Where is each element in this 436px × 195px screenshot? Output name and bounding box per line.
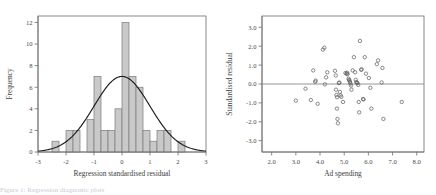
- scatter-point: [335, 107, 338, 110]
- scatter-x-tick-label: 2.0: [268, 158, 277, 165]
- histogram-bar: [150, 141, 157, 152]
- scatter-points: [294, 39, 403, 125]
- histogram-panel: -3-2-10123 024681012 Regression standard…: [0, 0, 218, 195]
- scatter-point: [341, 100, 344, 103]
- scatter-x-tick-label: 5.0: [340, 158, 349, 165]
- scatter-y-tick-label: -2.0: [246, 118, 257, 125]
- scatter-panel: 2.03.04.05.06.07.08.0 3.02.01.00.0-1.0-2…: [218, 0, 436, 195]
- scatter-point: [363, 55, 366, 58]
- histogram-y-tick-label: 10: [26, 40, 33, 47]
- scatter-point: [312, 69, 315, 72]
- histogram-bar: [136, 87, 143, 152]
- scatter-y-tick-label: 2.0: [248, 43, 257, 50]
- histogram-x-tick-label: 3: [204, 158, 208, 165]
- scatter-point: [334, 74, 337, 77]
- histogram-y-tick-label: 12: [26, 19, 33, 26]
- scatter-y-tick-label: 0.0: [248, 80, 257, 87]
- scatter-point: [335, 96, 338, 99]
- histogram-x-axis: -3-2-10123: [35, 152, 208, 165]
- scatter-y-axis: 3.02.01.00.0-1.0-2.0-3.0: [246, 16, 262, 152]
- scatter-y-tick-label: -1.0: [246, 99, 257, 106]
- scatter-x-tick-label: 4.0: [316, 158, 325, 165]
- histogram-bar: [129, 76, 136, 152]
- histogram-svg: -3-2-10123 024681012 Regression standard…: [0, 0, 218, 195]
- scatter-point: [326, 71, 329, 74]
- histogram-bar: [164, 130, 171, 152]
- histogram-x-tick-label: -2: [63, 158, 69, 165]
- scatter-point: [316, 102, 319, 105]
- histogram-bar: [108, 130, 115, 152]
- scatter-x-tick-label: 3.0: [292, 158, 301, 165]
- histogram-x-tick-label: 0: [120, 158, 124, 165]
- scatter-point: [364, 72, 367, 75]
- scatter-point: [334, 88, 337, 91]
- histogram-bar: [73, 130, 80, 152]
- histogram-x-tick-label: -3: [35, 158, 41, 165]
- scatter-y-axis-label: Standardised residual: [225, 52, 234, 115]
- scatter-svg: 2.03.04.05.06.07.08.0 3.02.01.00.0-1.0-2…: [218, 0, 436, 195]
- scatter-point: [358, 39, 361, 42]
- histogram-y-tick-label: 2: [29, 127, 32, 134]
- scatter-point: [370, 107, 373, 110]
- scatter-point: [338, 90, 341, 93]
- scatter-x-tick-label: 6.0: [364, 158, 373, 165]
- scatter-point: [309, 98, 312, 101]
- histogram-x-tick-label: 2: [176, 158, 179, 165]
- histogram-bar: [115, 109, 122, 152]
- scatter-point: [367, 76, 370, 79]
- histogram-y-axis: 024681012: [26, 16, 38, 155]
- figure-container: -3-2-10123 024681012 Regression standard…: [0, 0, 436, 195]
- scatter-point: [382, 117, 385, 120]
- scatter-point: [352, 55, 355, 58]
- scatter-y-tick-label: 3.0: [248, 24, 257, 31]
- scatter-point: [333, 69, 336, 72]
- scatter-y-tick-label: -3.0: [246, 137, 257, 144]
- histogram-bars: [52, 22, 185, 152]
- histogram-y-tick-label: 6: [29, 84, 33, 91]
- histogram-bar: [122, 22, 129, 152]
- scatter-point: [304, 87, 307, 90]
- scatter-point: [294, 99, 297, 102]
- histogram-bar: [157, 130, 164, 152]
- histogram-bar: [94, 76, 101, 152]
- histogram-bar: [87, 120, 94, 152]
- histogram-y-tick-label: 0: [29, 148, 33, 155]
- scatter-x-tick-label: 7.0: [388, 158, 397, 165]
- figure-caption: Figure 1: Regression diagnostic plots: [0, 186, 436, 195]
- scatter-y-tick-label: 1.0: [248, 62, 257, 69]
- scatter-point: [375, 62, 378, 65]
- scatter-x-axis: 2.03.04.05.06.07.08.0: [262, 152, 424, 165]
- histogram-x-tick-label: -1: [91, 158, 97, 165]
- scatter-point: [381, 66, 384, 69]
- scatter-point: [350, 88, 353, 91]
- scatter-point: [357, 100, 360, 103]
- scatter-point: [369, 86, 372, 89]
- scatter-x-tick-label: 8.0: [413, 158, 422, 165]
- scatter-point: [400, 100, 403, 103]
- scatter-point: [336, 122, 339, 125]
- histogram-bar: [101, 130, 108, 152]
- scatter-point: [353, 71, 356, 74]
- histogram-y-axis-label: Frequency: [5, 68, 14, 99]
- scatter-point: [336, 117, 339, 120]
- scatter-point: [358, 111, 361, 114]
- scatter-x-axis-label: Ad spending: [324, 169, 362, 178]
- histogram-y-tick-label: 8: [29, 62, 33, 69]
- histogram-bar: [143, 130, 150, 152]
- histogram-x-axis-label: Regression standardised residual: [74, 169, 171, 178]
- histogram-y-tick-label: 4: [29, 105, 33, 112]
- histogram-x-tick-label: 1: [148, 158, 151, 165]
- scatter-point: [324, 76, 327, 79]
- scatter-point: [376, 59, 379, 62]
